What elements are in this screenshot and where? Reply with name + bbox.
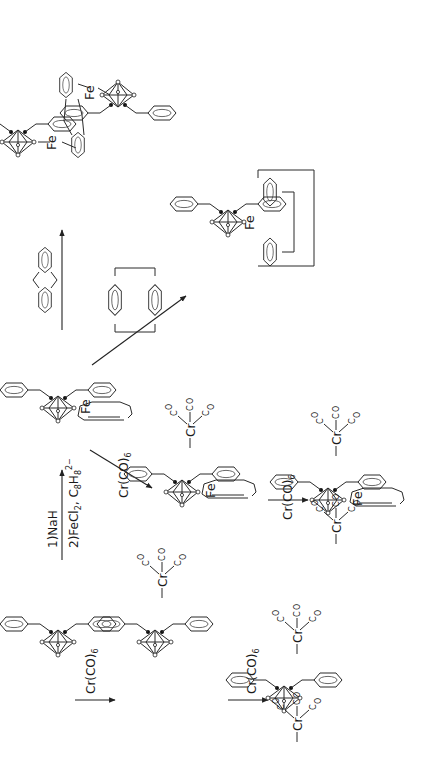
compound-fe-cot-bis-cr: Fe <box>270 406 404 544</box>
arrow-fe-to-mono-cr: Cr(CO)6 <box>90 450 152 498</box>
compound-bis-cr <box>226 604 342 742</box>
compound-fe-cot-mono-cr: Fe <box>124 398 256 507</box>
svg-text:Cr(CO)6: Cr(CO)6 <box>281 474 297 520</box>
arrow-to-bis-cr: Cr(CO)6 <box>228 648 268 700</box>
reaction-scheme: Cr C O C O C O Cr(CO)6 <box>0 0 431 784</box>
compound-fe2-dihydroanthracene: Fe Fe <box>0 72 176 157</box>
compound-fe-cot: Fe <box>0 383 132 423</box>
arrow-to-fe-cot: 1)NaH 2)FeCl2, C8H82− <box>46 458 83 560</box>
reagent-step1-line2: 2)FeCl2, C8H82− <box>65 458 83 548</box>
svg-text:Fe: Fe <box>242 215 257 230</box>
arrow-to-dihydroanthracene <box>33 230 62 330</box>
svg-text:Fe: Fe <box>44 135 59 150</box>
dihydroanthracene-reagent <box>33 247 57 312</box>
arrow-to-paracyclophane <box>92 268 186 365</box>
compound-mono-cr <box>97 548 213 657</box>
compound-fe-paracyclophane: Fe <box>170 170 314 266</box>
paracyclophane-reagent <box>109 268 162 332</box>
arrow-to-mono-cr: Cr(CO)6 <box>75 648 115 700</box>
reagent-cr-co6: Cr(CO)6 <box>84 648 100 694</box>
reagent-step1-line1: 1)NaH <box>46 510 60 548</box>
arrow-to-fe-cot-bis-cr: Cr(CO)6 <box>268 474 308 520</box>
